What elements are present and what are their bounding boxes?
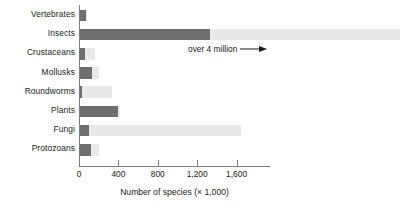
- category-label-vertebrates: Vertebrates: [0, 5, 75, 24]
- bar-segment-known: [79, 144, 91, 156]
- x-axis-line: [79, 166, 270, 167]
- bar-row: [79, 82, 402, 101]
- category-label-fungi: Fungi: [0, 120, 75, 139]
- x-axis-tick: [237, 160, 238, 166]
- x-axis-tick: [79, 160, 80, 166]
- x-axis-tick-label: 400: [111, 169, 125, 179]
- x-axis-tick-label: 800: [151, 169, 165, 179]
- arrow-right-icon: [240, 45, 268, 53]
- annotation-over-4-million: over 4 million: [188, 44, 268, 54]
- bar-segment-estimated: [79, 86, 112, 98]
- x-axis-title: Number of species (× 1,000): [79, 187, 270, 197]
- category-label-crustaceans: Crustaceans: [0, 43, 75, 62]
- bar-row: [79, 139, 402, 158]
- category-label-plants: Plants: [0, 101, 75, 120]
- bar-segment-known: [79, 125, 89, 137]
- bar-track: [79, 29, 402, 41]
- bar-track: [79, 67, 402, 79]
- bar-track: [79, 10, 402, 22]
- bar-track: [79, 106, 402, 118]
- x-axis-tick: [118, 160, 119, 166]
- x-axis-tick-label: 0: [77, 169, 82, 179]
- category-label-roundworms: Roundworms: [0, 82, 75, 101]
- bar-track: [79, 144, 402, 156]
- bar-row: [79, 24, 402, 43]
- bar-segment-estimated: [79, 125, 241, 137]
- bar-track: [79, 125, 402, 137]
- category-label-insects: Insects: [0, 24, 75, 43]
- x-axis-tick-label: 1,200: [187, 169, 208, 179]
- bar-segment-known: [79, 10, 86, 22]
- bar-row: [79, 101, 402, 120]
- bar-segment-known: [79, 67, 92, 79]
- y-axis-line: [79, 5, 80, 166]
- bar-row: [79, 5, 402, 24]
- category-axis-labels: Vertebrates Insects Crustaceans Mollusks…: [0, 5, 75, 159]
- bar-segment-known: [79, 106, 118, 118]
- species-bar-chart: Vertebrates Insects Crustaceans Mollusks…: [0, 0, 402, 215]
- x-axis-tick-label: 1,600: [226, 169, 247, 179]
- category-label-mollusks: Mollusks: [0, 63, 75, 82]
- category-label-protozoans: Protozoans: [0, 139, 75, 158]
- bar-row: [79, 63, 402, 82]
- annotation-label: over 4 million: [188, 44, 237, 54]
- x-axis-tick: [197, 160, 198, 166]
- bar-row: [79, 120, 402, 139]
- bar-segment-known: [79, 29, 210, 41]
- bar-track: [79, 86, 402, 98]
- plot-area: [79, 5, 402, 160]
- x-axis-tick: [158, 160, 159, 166]
